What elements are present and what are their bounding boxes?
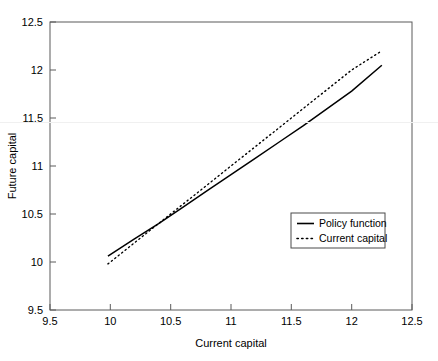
y-tick-label: 11.5 xyxy=(22,112,43,124)
x-tick-label: 11 xyxy=(225,315,236,327)
x-tick-label: 12.5 xyxy=(401,315,422,327)
x-tick-label: 12 xyxy=(346,315,358,327)
chart-canvas: 9.5 10 10.5 11 11.5 12 12.5 9.5 10 10.5 … xyxy=(0,0,438,361)
y-tick-label: 9.5 xyxy=(28,304,43,316)
x-axis-title: Current capital xyxy=(195,337,267,349)
chart-background xyxy=(0,0,438,361)
legend-label-policy-function: Policy function xyxy=(319,217,387,229)
chart-figure: 9.5 10 10.5 11 11.5 12 12.5 9.5 10 10.5 … xyxy=(0,0,438,361)
y-tick-label: 12.5 xyxy=(22,16,43,28)
x-tick-label: 10.5 xyxy=(160,315,181,327)
x-tick-label: 9.5 xyxy=(42,315,57,327)
chart-legend[interactable]: Policy function Current capital xyxy=(291,213,387,248)
y-tick-label: 10 xyxy=(31,256,43,268)
y-tick-label: 12 xyxy=(31,64,43,76)
y-tick-label: 10.5 xyxy=(22,208,43,220)
x-tick-label: 11.5 xyxy=(281,315,302,327)
x-tick-label: 10 xyxy=(104,315,116,327)
y-tick-label: 11 xyxy=(32,160,43,172)
legend-label-current-capital: Current capital xyxy=(319,232,387,244)
y-axis-title: Future capital xyxy=(6,133,18,200)
